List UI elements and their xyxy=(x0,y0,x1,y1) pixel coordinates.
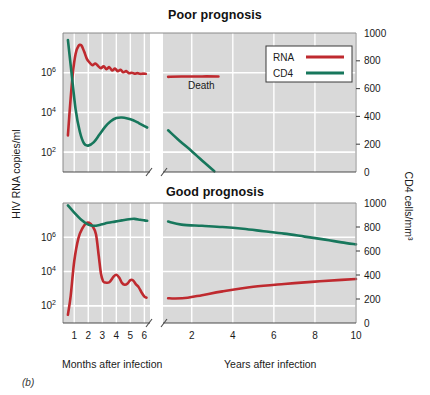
figure-hiv-prognosis: Poor prognosis Good prognosis HIV RNA co… xyxy=(0,0,430,395)
y-left-tick-label: 106 xyxy=(41,231,56,243)
y-right-tick-label: 0 xyxy=(364,318,370,329)
y-right-tick-label: 200 xyxy=(364,139,381,150)
y-right-tick-label: 1000 xyxy=(364,198,387,209)
legend-label-rna: RNA xyxy=(273,52,294,63)
x-tick-label-month: 3 xyxy=(100,330,106,341)
y-right-tick-label: 0 xyxy=(364,167,370,178)
x-tick-label-year: 6 xyxy=(271,330,277,341)
x-tick-label-month: 6 xyxy=(142,330,148,341)
x-tick-label-year: 8 xyxy=(312,330,318,341)
y-right-tick-label: 600 xyxy=(364,83,381,94)
y-right-tick-label: 600 xyxy=(364,246,381,257)
y-left-tick-label: 104 xyxy=(41,265,56,277)
x-tick-label-year: 10 xyxy=(350,330,362,341)
legend: RNACD4 xyxy=(266,46,352,82)
annotation-death: Death xyxy=(188,80,215,91)
y-left-tick-label: 104 xyxy=(41,106,56,118)
y-left-tick-label: 102 xyxy=(41,299,56,311)
x-tick-label-month: 2 xyxy=(85,330,91,341)
x-tick-label-year: 2 xyxy=(189,330,195,341)
x-tick-label-month: 5 xyxy=(128,330,134,341)
y-right-tick-label: 800 xyxy=(364,55,381,66)
y-right-tick-label: 1000 xyxy=(364,28,387,39)
y-right-tick-label: 800 xyxy=(364,222,381,233)
legend-label-cd4: CD4 xyxy=(273,68,293,79)
y-right-tick-label: 400 xyxy=(364,111,381,122)
y-right-tick-label: 400 xyxy=(364,270,381,281)
x-tick-label-month: 4 xyxy=(114,330,120,341)
y-left-tick-label: 102 xyxy=(41,146,56,158)
y-left-tick-label: 106 xyxy=(41,66,56,78)
x-tick-label-year: 4 xyxy=(230,330,236,341)
y-right-tick-label: 200 xyxy=(364,294,381,305)
x-tick-label-month: 1 xyxy=(71,330,77,341)
plot-canvas: 1061041021000800600400200010610410210008… xyxy=(0,0,430,395)
